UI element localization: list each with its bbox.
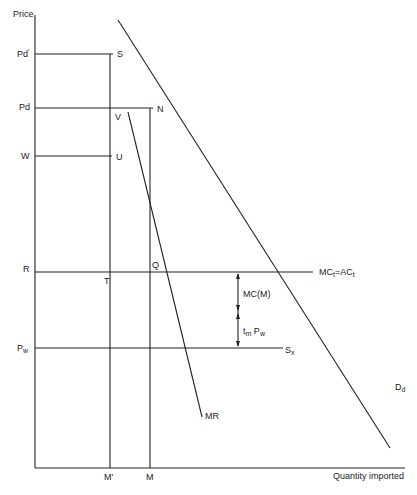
point-v: V bbox=[115, 113, 121, 122]
pd-prime-label: Pd' bbox=[17, 50, 29, 59]
mr-label: MR bbox=[205, 412, 219, 421]
dd-label: Dd bbox=[395, 383, 405, 392]
mr-curve bbox=[128, 112, 202, 417]
pw-label: Pw bbox=[17, 344, 28, 353]
tm-pw-label: tm Pw bbox=[243, 327, 265, 336]
m-prime-label: M' bbox=[104, 473, 113, 482]
point-s: S bbox=[117, 50, 123, 59]
demand-curve bbox=[118, 20, 390, 448]
y-axis-label: Price bbox=[13, 10, 34, 19]
x-axis-label: Quantity imported bbox=[333, 472, 404, 481]
point-n: N bbox=[157, 105, 164, 114]
r-label: R bbox=[23, 265, 30, 274]
point-t: T bbox=[104, 277, 110, 286]
diagram-canvas: Price Quantity imported Pd' Pd W R Pw M'… bbox=[0, 0, 417, 495]
m-label: M bbox=[146, 473, 154, 482]
point-u: U bbox=[116, 153, 123, 162]
pd-label: Pd bbox=[19, 103, 30, 112]
point-q: Q bbox=[152, 261, 159, 270]
mcm-label: MC(M) bbox=[243, 290, 271, 299]
sx-label: Sx bbox=[285, 346, 295, 355]
mc-ac-label: MCt=ACt bbox=[319, 268, 355, 277]
w-label: W bbox=[21, 152, 30, 161]
